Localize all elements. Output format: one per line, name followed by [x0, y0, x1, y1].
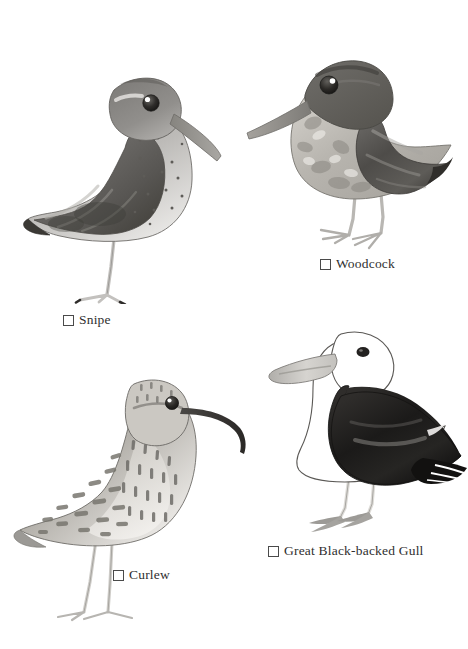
checkbox-icon-snipe[interactable] — [63, 315, 74, 326]
checkbox-icon-curlew[interactable] — [113, 570, 124, 581]
bird-illustration-snipe — [22, 52, 222, 304]
checklist-item-curlew[interactable]: Curlew — [113, 567, 170, 583]
checkbox-icon-woodcock[interactable] — [320, 259, 331, 270]
checklist-item-woodcock[interactable]: Woodcock — [320, 256, 395, 272]
bird-illustration-curlew — [12, 372, 252, 622]
checklist-label-gull: Great Black-backed Gull — [284, 543, 424, 559]
checklist-label-snipe: Snipe — [79, 312, 111, 328]
checklist-label-woodcock: Woodcock — [336, 256, 395, 272]
checklist-item-snipe[interactable]: Snipe — [63, 312, 111, 328]
checklist-label-curlew: Curlew — [129, 567, 170, 583]
checkbox-icon-gull[interactable] — [268, 546, 279, 557]
bird-illustration-gull — [245, 318, 468, 538]
checklist-item-gull[interactable]: Great Black-backed Gull — [268, 543, 424, 559]
bird-illustration-woodcock — [243, 27, 453, 259]
checklist-page: Snipe — [0, 0, 468, 649]
